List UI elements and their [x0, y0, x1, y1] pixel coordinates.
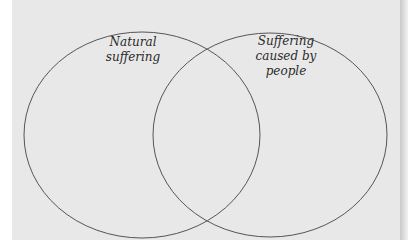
set-label-line: caused by [236, 49, 336, 64]
set-label-natural-suffering: Natural suffering [78, 35, 188, 65]
set-label-line: people [236, 64, 336, 79]
set-label-line: Suffering [236, 34, 336, 49]
venn-diagram-page: Natural suffering Suffering caused by pe… [0, 0, 408, 240]
set-label-suffering-caused-by-people: Suffering caused by people [236, 34, 336, 79]
set-label-line: Natural [78, 35, 188, 50]
set-label-line: suffering [78, 50, 188, 65]
venn-diagram [0, 0, 408, 240]
